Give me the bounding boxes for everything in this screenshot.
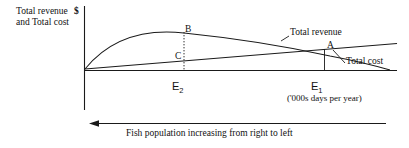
footer-caption: Fish population increasing from right to… [126, 128, 293, 139]
x-axis-units-note: ('000s days per year) [287, 93, 362, 104]
figure-container: Total revenue and Total cost $ B C A Tot… [0, 0, 409, 148]
point-label-b: B [185, 24, 191, 35]
point-label-a: A [327, 40, 334, 51]
e2-subscript: 2 [179, 86, 183, 95]
total-revenue-curve [85, 32, 390, 70]
direction-arrow-head-left-icon [89, 120, 99, 126]
curve-label-total-revenue: Total revenue [290, 27, 342, 38]
total-revenue-leader-line [281, 36, 289, 41]
curve-label-total-cost: Total cost [346, 56, 383, 67]
y-axis-title: Total revenue and Total cost [16, 6, 80, 28]
point-label-c: C [175, 51, 181, 62]
y-axis-currency-unit: $ [74, 6, 79, 17]
x-axis-label-e2: E2 [172, 80, 184, 96]
